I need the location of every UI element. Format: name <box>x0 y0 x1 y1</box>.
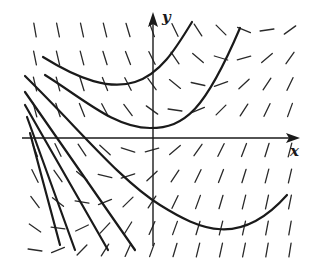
slope-dash <box>216 105 226 115</box>
slope-dash <box>168 109 182 111</box>
slope-dash <box>266 243 268 257</box>
slope-dash <box>51 227 65 229</box>
slope-dash <box>81 23 84 37</box>
slope-dash <box>76 225 89 231</box>
x-axis-label: x <box>290 142 299 160</box>
slope-dash <box>195 170 201 183</box>
solution-curve-lower-parabola <box>25 76 287 229</box>
slope-dash <box>218 144 224 157</box>
slope-dash <box>173 243 177 256</box>
slope-dash <box>289 221 291 235</box>
slope-dash <box>173 221 178 234</box>
slope-dash <box>31 196 39 207</box>
slope-dash <box>125 244 131 257</box>
slope-dash <box>242 144 247 157</box>
slope-dash <box>243 221 246 235</box>
slope-dash <box>52 247 65 252</box>
slope-dash <box>149 52 155 65</box>
slope-dash <box>288 169 291 183</box>
slope-dash <box>100 223 110 233</box>
slope-dash <box>191 83 205 86</box>
slope-dash <box>289 195 292 209</box>
slope-dash <box>32 170 38 183</box>
slope-dash <box>242 169 246 182</box>
slope-dash <box>103 51 107 64</box>
slope-dash <box>77 245 87 255</box>
slope-dash <box>219 221 222 235</box>
slope-dash <box>147 171 157 181</box>
slope-dash <box>240 104 248 116</box>
slope-dash <box>266 221 269 235</box>
slope-dash <box>29 224 40 232</box>
slope-dash <box>55 144 61 157</box>
slope-field-diagram <box>0 0 320 266</box>
slope-dash <box>80 77 84 90</box>
slope-dash <box>34 23 36 37</box>
slope-dash <box>121 148 134 152</box>
slope-dash <box>149 222 155 235</box>
slope-dash <box>266 195 269 209</box>
slope-dash <box>220 243 223 257</box>
slope-dash <box>170 80 181 89</box>
slope-dash <box>265 143 269 156</box>
slope-dash <box>239 79 249 89</box>
slope-dash <box>79 104 84 117</box>
slope-dash <box>56 51 59 65</box>
slope-dash <box>170 146 181 155</box>
slope-dash <box>286 52 294 63</box>
slope-dash <box>219 170 224 183</box>
slope-dash <box>265 169 269 183</box>
solution-curves <box>25 22 287 250</box>
slope-dash <box>263 78 271 90</box>
solution-curve-straight-line-3 <box>27 117 75 250</box>
slope-dash <box>126 23 130 36</box>
slope-dash <box>237 56 250 60</box>
slope-dash <box>126 52 131 65</box>
slope-dash <box>145 148 158 152</box>
solution-curve-upper-parabola <box>43 22 192 85</box>
slope-dash <box>196 195 201 208</box>
slope-dash <box>123 197 133 207</box>
slope-dash <box>242 195 245 209</box>
slope-dash <box>80 51 84 65</box>
slope-dash <box>124 104 132 115</box>
slope-dash <box>171 170 179 182</box>
slope-dash <box>260 29 274 31</box>
slope-dash <box>287 78 293 91</box>
slope-dash <box>146 106 157 114</box>
slope-dash <box>243 243 246 257</box>
slope-dash <box>196 243 199 257</box>
slope-dash <box>214 82 227 87</box>
slope-dash <box>172 24 178 37</box>
slope-dash <box>193 53 204 62</box>
slope-dash <box>78 144 86 156</box>
slope-dash <box>289 243 291 257</box>
slope-dash <box>172 196 178 209</box>
slope-dash <box>262 54 273 63</box>
slope-dash <box>288 103 293 116</box>
slope-dash <box>284 26 295 34</box>
slope-dash <box>264 104 270 117</box>
slope-dash <box>28 249 42 251</box>
slope-dash <box>98 174 112 177</box>
slope-dash <box>54 170 62 181</box>
y-axis-label: y <box>162 8 171 26</box>
slope-dash <box>148 78 156 89</box>
slope-dash <box>57 23 60 37</box>
slope-dash <box>194 24 202 36</box>
slope-dash <box>194 144 202 155</box>
slope-dash <box>216 25 226 35</box>
slope-dash <box>219 195 223 208</box>
slope-dash <box>124 222 131 234</box>
slope-dash <box>34 51 37 65</box>
slope-dash <box>103 23 106 37</box>
